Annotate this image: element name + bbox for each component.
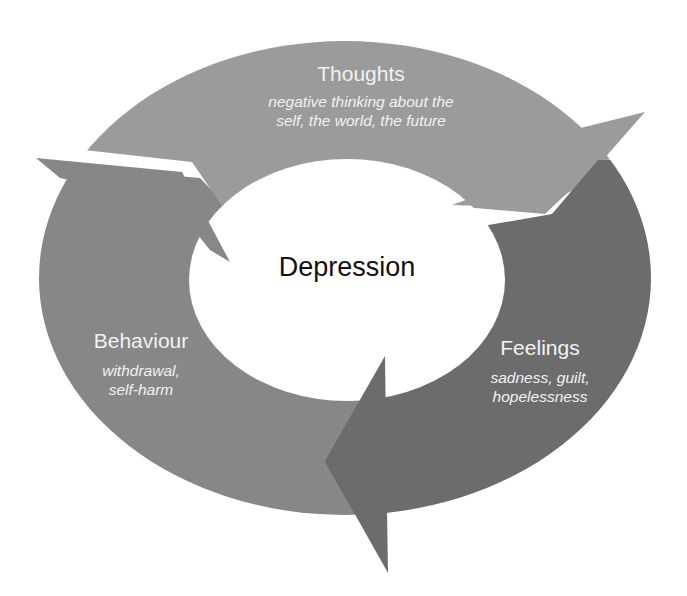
feelings-title: Feelings: [470, 336, 610, 360]
thoughts-description-line-2: self, the world, the future: [236, 111, 486, 130]
thoughts-label: Thoughts negative thinking about the sel…: [236, 62, 486, 130]
thoughts-title: Thoughts: [236, 62, 486, 86]
feelings-description-line-2: hopelessness: [470, 387, 610, 406]
behaviour-label: Behaviour withdrawal, self-harm: [76, 329, 206, 399]
behaviour-title: Behaviour: [76, 329, 206, 353]
feelings-description-line-1: sadness, guilt,: [470, 368, 610, 387]
behaviour-description-line-2: self-harm: [76, 380, 206, 399]
center-label: Depression: [247, 252, 447, 283]
behaviour-description-line-1: withdrawal,: [76, 361, 206, 380]
thoughts-description-line-1: negative thinking about the: [236, 92, 486, 111]
feelings-label: Feelings sadness, guilt, hopelessness: [470, 336, 610, 406]
